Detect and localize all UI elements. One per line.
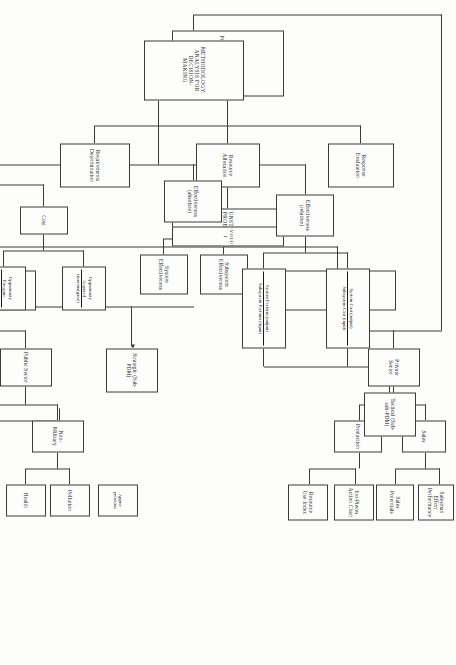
node-subsystem-effectiveness[interactable]: Subsystem Effectiveness — [200, 254, 248, 294]
connector — [227, 186, 228, 208]
node-label: Public Sector — [23, 351, 29, 383]
connector — [264, 252, 348, 253]
node-resource-use-index[interactable]: Resource Use Index — [288, 484, 328, 520]
node-label: Tactical (Sub-sub-PDM) — [384, 395, 396, 433]
node-label: Response Evaluation — [355, 146, 367, 184]
node-label: METHODOLOGY: ANALYSIS FOR DECISION-MAKIN… — [182, 43, 206, 97]
connector — [57, 452, 58, 468]
node-label: Requirements Determination — [89, 146, 101, 184]
fraction-numerator: Opportunity Foregone — [1, 269, 13, 307]
connector — [310, 468, 356, 469]
connector — [227, 125, 228, 143]
node-non-military[interactable]: Non-Military — [32, 420, 84, 452]
node-system-effectiveness[interactable]: System Effectiveness — [140, 254, 188, 294]
connector — [263, 348, 264, 366]
connector — [25, 330, 26, 348]
fraction: Opportunity Foregone (marginal) — [0, 269, 13, 307]
connector — [3, 250, 4, 266]
node-label: System Effectiveness — [158, 257, 170, 291]
connector — [396, 468, 440, 469]
connector — [264, 366, 348, 367]
node-label: Effectiveness (absolute) — [187, 183, 199, 219]
connector — [57, 404, 58, 420]
connector — [43, 234, 44, 250]
node-label: Non-Military — [52, 423, 64, 449]
node-health[interactable]: Health — [6, 484, 46, 516]
node-label: Ino-Pieces Action Chart — [348, 487, 360, 517]
connector — [425, 452, 426, 468]
node-effectiveness-absolute[interactable]: Effectiveness (absolute) — [164, 180, 222, 222]
node-opportunity-acquired[interactable]: Opportunity Acquired (non-marginal) — [62, 266, 106, 310]
connector — [395, 468, 396, 484]
connector — [25, 386, 26, 404]
fraction-numerator: System Perform (output) — [264, 271, 271, 345]
node-requirements-determination[interactable]: Requirements Determination — [60, 143, 130, 187]
connector — [347, 348, 348, 366]
node-label: Cost — [41, 209, 47, 231]
node-label: VOLUME I — [222, 229, 233, 243]
connector — [337, 246, 338, 270]
connector — [26, 468, 70, 469]
fraction: System Cost (output) Subsystem Cost (inp… — [342, 271, 354, 345]
connector — [158, 100, 159, 164]
connector — [43, 184, 44, 206]
node-ino-pieces-action-chart[interactable]: Ino-Pieces Action Chart — [334, 484, 374, 520]
connector — [359, 404, 360, 420]
connector — [305, 164, 306, 194]
connector — [25, 468, 26, 484]
fraction-denominator: (marginal) — [0, 269, 1, 307]
fraction-denominator: Subsystem Perform (input) — [258, 271, 264, 345]
connector — [439, 468, 440, 484]
node-label: Effectiveness (relative) — [299, 197, 311, 233]
connector — [193, 164, 194, 180]
node-label: Pollution — [67, 487, 73, 513]
connector — [305, 236, 306, 252]
node-pollution[interactable]: Pollution — [50, 484, 90, 516]
node-label: Strategic (Sub-PDM) — [126, 351, 138, 389]
node-label: Appro- priations — [113, 487, 123, 513]
connector — [0, 184, 44, 185]
fraction-numerator: System Cost (output) — [348, 271, 355, 345]
fraction-numerator: Opportunity Acquired — [81, 269, 93, 307]
connector — [59, 408, 60, 420]
node-label: Resource Use Index — [302, 487, 314, 517]
node-methodology[interactable]: METHODOLOGY: ANALYSIS FOR DECISION-MAKIN… — [144, 40, 244, 100]
connector — [69, 468, 70, 484]
node-opportunity-foregone[interactable]: Opportunity Foregone (marginal) — [0, 266, 26, 310]
node-label: Private Sector — [388, 351, 400, 383]
connector — [359, 452, 360, 468]
node-label: Production — [355, 423, 361, 449]
node-response-evaluation[interactable]: Response Evaluation — [328, 143, 394, 187]
node-sales-potentials[interactable]: Sales Potentials — [376, 484, 414, 520]
node-salesman-effort-performance[interactable]: Salesman Effort Performance — [418, 484, 454, 520]
node-private-sector[interactable]: Private Sector — [368, 348, 420, 386]
node-appropriations[interactable]: Appro- priations — [98, 484, 138, 516]
connector — [309, 468, 310, 484]
connector — [131, 306, 132, 346]
node-strategic-sub-pdm[interactable]: Strategic (Sub-PDM) — [106, 348, 158, 392]
node-volume-i[interactable]: VOLUME I — [172, 226, 284, 246]
node-cost[interactable]: Cost — [20, 206, 68, 234]
connector — [132, 306, 194, 307]
diagram-canvas: PROBLEM ANALYSIS FOR POLICY DECISIONS Re… — [0, 0, 456, 665]
node-effectiveness-relative[interactable]: Effectiveness (relative) — [276, 194, 334, 236]
fraction-denominator: Subsystem Cost (input) — [342, 271, 348, 345]
arrow-into-strategic — [131, 344, 135, 348]
node-label: Health — [23, 487, 29, 513]
node-public-sector[interactable]: Public Sector — [0, 348, 52, 386]
fraction: Opportunity Acquired (non-marginal) — [75, 269, 92, 307]
connector — [4, 250, 84, 251]
connector — [159, 164, 194, 165]
node-label: Subsystem Effectiveness — [218, 257, 230, 291]
connector — [0, 330, 26, 331]
connector — [95, 125, 361, 126]
node-label: Resource Allocation — [222, 146, 234, 184]
connector — [394, 330, 442, 331]
node-tactical-sub-sub-pdm[interactable]: Tactical (Sub-sub-PDM) — [364, 392, 416, 436]
connector — [347, 252, 348, 268]
connector — [94, 125, 95, 143]
node-label: Sales — [421, 423, 427, 449]
node-system-perform-ratio[interactable]: System Perform (output) Subsystem Perfor… — [242, 268, 286, 348]
connector — [163, 238, 164, 254]
node-system-cost-ratio[interactable]: System Cost (output) Subsystem Cost (inp… — [326, 268, 370, 348]
